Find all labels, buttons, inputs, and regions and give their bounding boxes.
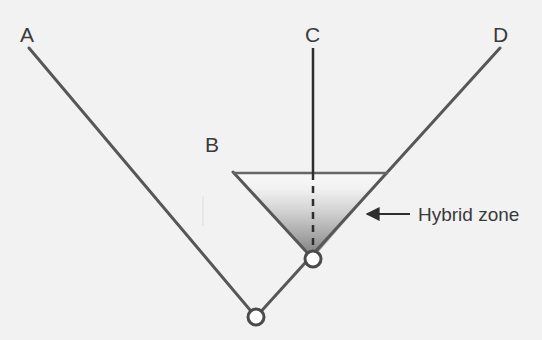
hybrid-zone-region	[233, 173, 388, 258]
label-a: A	[20, 23, 34, 46]
label-c: C	[305, 23, 320, 46]
label-b: B	[205, 133, 219, 156]
lineage-diagram: A B C D Hybrid zone	[0, 0, 542, 340]
hybrid-zone-label: Hybrid zone	[418, 204, 519, 225]
diagram-canvas: A B C D Hybrid zone	[0, 0, 542, 340]
node-upper	[305, 251, 321, 267]
label-d: D	[493, 23, 508, 46]
node-lower	[248, 309, 264, 325]
lineage-line-a	[29, 48, 256, 317]
